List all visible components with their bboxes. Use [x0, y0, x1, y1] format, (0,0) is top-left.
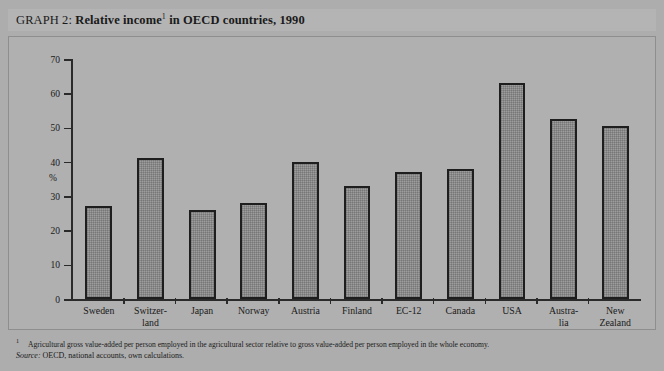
x-axis-category-label: USA	[486, 305, 538, 328]
bar-slot	[331, 59, 383, 299]
y-axis-tick-mark: 0	[64, 299, 72, 301]
bar-slot	[228, 59, 280, 299]
x-axis-category-label: EC-12	[383, 305, 435, 328]
y-axis-tick-label: 40	[51, 158, 61, 168]
bar	[344, 186, 371, 299]
figure-title-rest: in OECD countries, 1990	[166, 13, 305, 27]
y-axis-tick-mark: 30	[64, 196, 72, 198]
bar	[395, 172, 422, 299]
bar-slot	[383, 59, 435, 299]
x-axis-line	[71, 299, 641, 301]
y-axis-tick-mark: 60	[64, 93, 72, 95]
bar-slot	[125, 59, 177, 299]
source-text: OECD, national accounts, own calculation…	[41, 351, 185, 360]
bar	[240, 203, 267, 299]
page-title: GRAPH 2: Relative income1 in OECD countr…	[16, 13, 305, 28]
x-axis-category-label: Austria	[280, 305, 332, 328]
x-axis-category-labels: SwedenSwitzer- landJapanNorwayAustriaFin…	[73, 305, 641, 328]
figure-title-band: GRAPH 2: Relative income1 in OECD countr…	[8, 9, 656, 31]
footnotes: 1Agricultural gross value-added per pers…	[16, 336, 656, 361]
bar	[602, 126, 629, 299]
x-axis-category-label: Austra- lia	[538, 305, 590, 328]
bar	[447, 169, 474, 299]
bar	[85, 206, 112, 299]
bar	[550, 119, 577, 299]
bar-series	[73, 59, 641, 299]
bar-slot	[486, 59, 538, 299]
y-axis-tick-mark: 40	[64, 162, 72, 164]
y-axis-tick-mark: 20	[64, 230, 72, 232]
y-axis-tick-label: 20	[51, 226, 61, 236]
chart-panel: 010203040506070 % SwedenSwitzer- landJap…	[8, 36, 656, 330]
bar-slot	[176, 59, 228, 299]
bar	[499, 83, 526, 299]
y-axis-tick-mark: 10	[64, 265, 72, 267]
footnote-marker: 1	[16, 336, 28, 347]
plot-area: 010203040506070 % SwedenSwitzer- landJap…	[71, 59, 641, 299]
x-axis-category-label: Finland	[331, 305, 383, 328]
x-axis-category-label: Switzer- land	[125, 305, 177, 328]
source-label: Source:	[16, 351, 41, 360]
x-axis-category-label: Canada	[434, 305, 486, 328]
source-line: Source: OECD, national accounts, own cal…	[16, 350, 656, 361]
bar-slot	[434, 59, 486, 299]
y-axis-unit-label: %	[49, 173, 57, 183]
bar-slot	[280, 59, 332, 299]
y-axis-tick-label: 0	[55, 295, 60, 305]
figure-page: GRAPH 2: Relative income1 in OECD countr…	[0, 0, 664, 371]
bar	[137, 158, 164, 299]
footnote-1: 1Agricultural gross value-added per pers…	[16, 336, 656, 350]
x-axis-category-label: New Zealand	[589, 305, 641, 328]
x-axis-category-label: Sweden	[73, 305, 125, 328]
y-axis-tick-mark: 70	[64, 59, 72, 61]
y-axis-tick-label: 70	[51, 55, 61, 65]
bar-slot	[538, 59, 590, 299]
footnote-text: Agricultural gross value-added per perso…	[28, 340, 489, 349]
y-axis-tick-label: 50	[51, 123, 61, 133]
y-axis-tick-label: 10	[51, 260, 61, 270]
figure-label: GRAPH 2:	[16, 13, 72, 27]
x-axis-category-label: Japan	[176, 305, 228, 328]
bar	[189, 210, 216, 299]
y-axis-tick-label: 60	[51, 89, 61, 99]
figure-title-main: Relative income	[75, 13, 162, 27]
y-axis-tick-label: 30	[51, 192, 61, 202]
x-axis-category-label: Norway	[228, 305, 280, 328]
y-axis-tick-mark: 50	[64, 128, 72, 130]
bar	[292, 162, 319, 299]
bar-slot	[589, 59, 641, 299]
bar-slot	[73, 59, 125, 299]
